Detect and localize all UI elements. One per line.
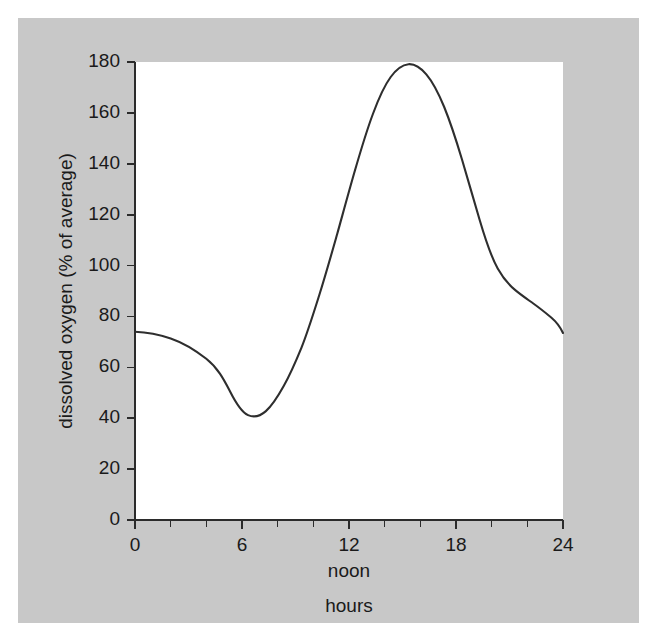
y-tick-label-20: 20 xyxy=(99,457,120,478)
x-axis-major-ticks xyxy=(135,520,563,529)
x-tick-label-6: 6 xyxy=(237,534,248,555)
y-tick-label-180: 180 xyxy=(88,50,120,71)
y-tick-label-120: 120 xyxy=(88,203,120,224)
y-tick-label-0: 0 xyxy=(109,508,120,529)
y-tick-label-60: 60 xyxy=(99,355,120,376)
x-tick-label-24: 24 xyxy=(552,534,574,555)
y-axis-ticks xyxy=(127,62,135,520)
y-tick-label-80: 80 xyxy=(99,304,120,325)
y-tick-label-40: 40 xyxy=(99,406,120,427)
y-tick-label-140: 140 xyxy=(88,152,120,173)
x-tick-label-12: 12 xyxy=(338,534,359,555)
y-axis-title: dissolved oxygen (% of average) xyxy=(55,153,76,429)
y-tick-label-100: 100 xyxy=(88,254,120,275)
noon-annotation: noon xyxy=(328,560,370,581)
line-chart: 0 20 40 60 80 100 120 140 160 180 xyxy=(0,0,657,642)
x-tick-label-18: 18 xyxy=(445,534,466,555)
x-tick-label-0: 0 xyxy=(130,534,141,555)
figure-root: 0 20 40 60 80 100 120 140 160 180 xyxy=(0,0,657,642)
y-tick-label-160: 160 xyxy=(88,101,120,122)
x-axis-title: hours xyxy=(325,595,373,616)
plot-area-background xyxy=(135,62,563,520)
